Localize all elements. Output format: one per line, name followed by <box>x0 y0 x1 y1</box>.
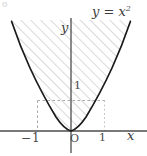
y-tick-label-one: 1 <box>74 80 81 91</box>
origin-label: O <box>70 133 79 144</box>
parabola-figure: o y = x2 y x 1 −1 O 1 <box>0 0 147 156</box>
x-axis-label: x <box>127 129 134 142</box>
curve-equation-label: y = x2 <box>92 5 131 18</box>
curve-equation-exponent: 2 <box>126 4 131 13</box>
y-axis-label: y <box>61 21 68 34</box>
corner-artifact-mark: o <box>2 0 7 9</box>
x-tick-label-one: 1 <box>99 132 106 143</box>
curve-equation-base: y = x <box>92 4 126 19</box>
x-tick-label-negative-one: −1 <box>21 132 41 144</box>
